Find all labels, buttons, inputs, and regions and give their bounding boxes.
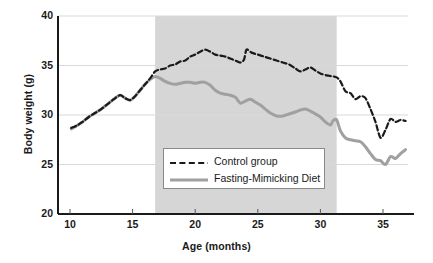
legend-label-fmd: Fasting-Mimicking Diet [214, 172, 320, 184]
x-tick-label-30: 30 [307, 218, 333, 230]
chart-figure: 40 35 30 25 20 10 15 20 25 30 35 Body we… [0, 0, 433, 263]
x-axis-title: Age (months) [0, 240, 433, 252]
legend-item-fmd: Fasting-Mimicking Diet [170, 169, 320, 186]
y-tick-label-40: 40 [27, 9, 53, 21]
x-tick-label-20: 20 [182, 218, 208, 230]
x-tick-label-15: 15 [120, 218, 146, 230]
legend-label-control-group: Control group [214, 155, 278, 167]
legend-swatch-solid [170, 172, 208, 184]
x-tick-label-10: 10 [57, 218, 83, 230]
x-tick-label-35: 35 [370, 218, 396, 230]
x-tick-label-25: 25 [245, 218, 271, 230]
legend-swatch-dashed [170, 155, 208, 167]
y-tick-label-20: 20 [27, 207, 53, 219]
chart-legend: Control group Fasting-Mimicking Diet [163, 148, 325, 189]
legend-item-control-group: Control group [170, 152, 278, 169]
y-axis-title: Body weight (g) [22, 34, 34, 194]
